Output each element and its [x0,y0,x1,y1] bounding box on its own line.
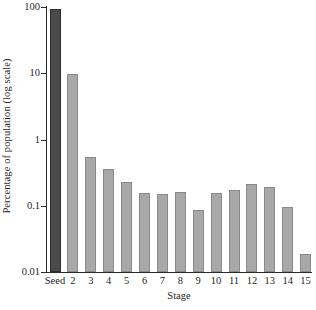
bar[interactable] [229,190,240,272]
bar-fill [246,184,257,272]
bar[interactable] [264,187,275,272]
y-tick-label: 0.1 [2,201,40,211]
bar[interactable] [67,74,78,272]
bar-fill [121,182,132,272]
bar[interactable] [103,169,114,272]
bar[interactable] [121,182,132,272]
x-tick-label: 15 [286,275,316,287]
bar-fill [175,192,186,272]
y-tick-label: 1 [2,135,40,145]
bar-chart: Percentage of population (log scale) 100… [0,0,316,310]
bar[interactable] [193,210,204,272]
bar-fill [67,74,78,272]
bar-fill [157,194,168,272]
bar[interactable] [50,9,61,272]
bar-fill [282,207,293,272]
x-axis-title: Stage [46,290,312,301]
bar-fill [211,193,222,272]
y-tick-label-wrap: 0.1 [0,201,40,211]
bar-fill [229,190,240,272]
bar[interactable] [85,157,96,272]
bar[interactable] [157,194,168,272]
x-axis-line [46,272,312,273]
y-tick-label-wrap: 0.01 [0,267,40,277]
bar-fill [103,169,114,272]
bar-fill [193,210,204,272]
bar[interactable] [282,207,293,272]
bar-fill [300,254,311,272]
y-tick-label: 100 [2,2,40,12]
y-tick-label-wrap: 100 [0,2,40,12]
bar-fill [50,9,61,272]
plot-area [46,7,311,272]
y-tick-label-wrap: 1 [0,135,40,145]
y-tick-label-wrap: 10 [0,68,40,78]
bar-fill [139,193,150,272]
bar[interactable] [211,193,222,272]
bar[interactable] [246,184,257,272]
bar-fill [85,157,96,272]
bar-fill [264,187,275,272]
bar[interactable] [175,192,186,272]
y-tick-mark [41,272,46,273]
bar[interactable] [139,193,150,272]
y-tick-label: 10 [2,68,40,78]
bar[interactable] [300,254,311,272]
